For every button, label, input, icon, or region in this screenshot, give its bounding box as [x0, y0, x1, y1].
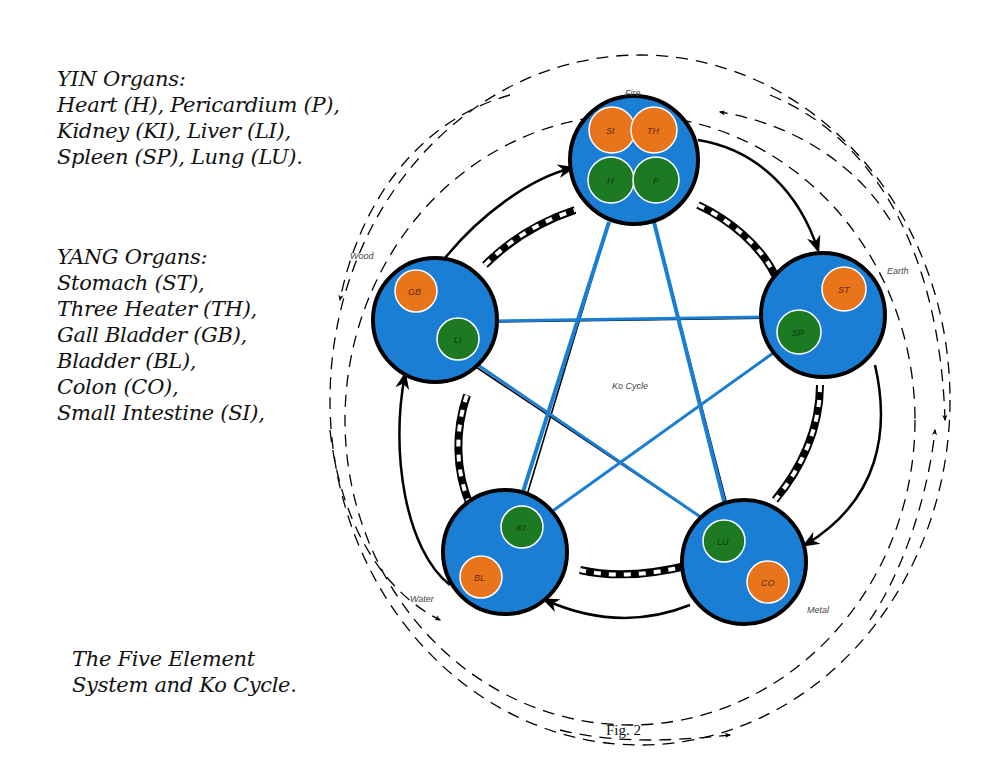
ko-cycle-label: Ko Cycle — [612, 381, 648, 391]
svg-text:BL: BL — [474, 573, 485, 583]
ko-cycle-star — [473, 222, 787, 520]
svg-text:ST: ST — [838, 285, 851, 295]
element-water: Water KI BL — [410, 490, 567, 614]
element-wood: Wood GB LI — [350, 251, 497, 382]
svg-text:TH: TH — [647, 126, 659, 136]
element-label-wood: Wood — [350, 251, 375, 261]
element-label-water: Water — [410, 594, 435, 604]
element-earth: Earth ST SP — [761, 253, 909, 377]
element-label-metal: Metal — [807, 605, 830, 615]
element-fire: Fire SI TH H P — [570, 88, 698, 224]
svg-text:SI: SI — [606, 126, 615, 136]
five-element-diagram: Ko Cycle Fire SI TH H P Earth ST SP Meta… — [0, 0, 995, 772]
svg-text:P: P — [653, 176, 659, 186]
svg-text:SP: SP — [792, 328, 804, 338]
svg-text:KI: KI — [517, 523, 526, 533]
element-label-fire: Fire — [625, 88, 641, 98]
svg-text:LI: LI — [454, 335, 462, 345]
svg-text:H: H — [607, 176, 614, 186]
element-label-earth: Earth — [887, 266, 909, 276]
svg-text:CO: CO — [761, 578, 775, 588]
svg-text:LU: LU — [717, 537, 729, 547]
svg-text:GB: GB — [408, 287, 421, 297]
element-metal: Metal LU CO — [682, 500, 830, 624]
